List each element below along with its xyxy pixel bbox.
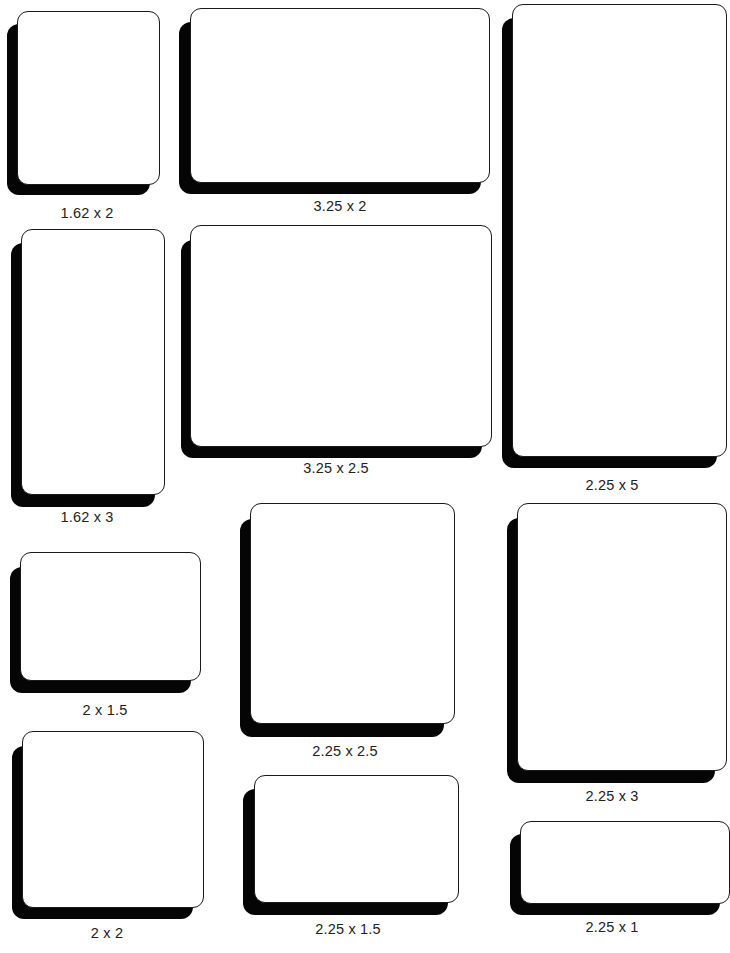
card-face [190,8,490,183]
card-label: 2 x 1.5 [15,702,195,718]
card-face [520,821,730,904]
card-label: 3.25 x 2.5 [181,460,491,476]
card-face [22,731,204,908]
card-label: 2.25 x 3 [512,788,712,804]
card-face [17,11,160,185]
card-label: 1.62 x 3 [22,509,152,525]
card-label: 1.62 x 2 [17,205,157,221]
card-face [190,225,492,447]
card-face [20,552,201,681]
card-label: 3.25 x 2 [190,198,490,214]
card-face [254,775,459,903]
card-label: 2.25 x 1 [512,919,712,935]
card-label: 2.25 x 2.5 [240,743,450,759]
card-face [512,4,727,457]
card-face [517,503,727,771]
card-label: 2.25 x 5 [512,477,712,493]
card-face [250,503,455,724]
card-label: 2 x 2 [17,925,197,941]
card-label: 2.25 x 1.5 [243,921,453,937]
card-face [21,229,165,495]
